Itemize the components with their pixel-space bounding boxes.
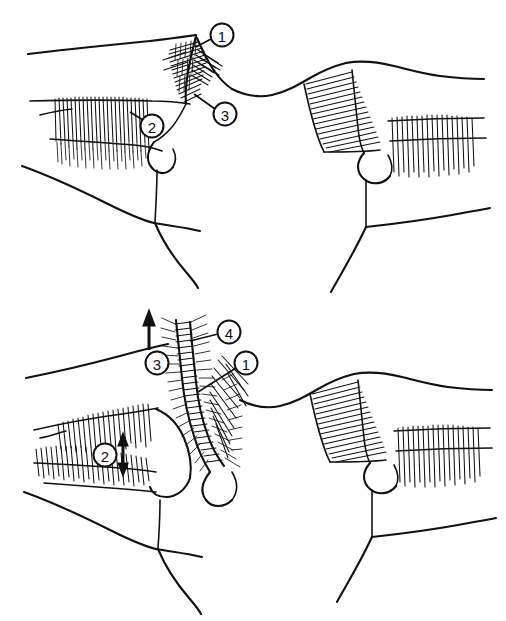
callout-2-lower[interactable]: 2 bbox=[94, 444, 117, 467]
callout-2-upper-number: 2 bbox=[148, 119, 156, 136]
callout-4-lower[interactable]: 4 bbox=[190, 321, 241, 344]
callout-2-upper[interactable]: 2 bbox=[130, 112, 164, 138]
callout-1-lower-number: 1 bbox=[242, 356, 250, 373]
callout-2-lower-number: 2 bbox=[101, 448, 109, 465]
callout-1-lower[interactable]: 1 bbox=[198, 352, 258, 393]
callout-3-lower[interactable]: 3 bbox=[146, 352, 169, 375]
callout-3-upper-number: 3 bbox=[221, 107, 229, 124]
figure-root: 1 3 2 4 1 3 2 bbox=[0, 0, 506, 621]
callout-1-upper[interactable]: 1 bbox=[196, 24, 234, 48]
callout-3-lower-number: 3 bbox=[153, 356, 161, 373]
callout-4-lower-number: 4 bbox=[225, 325, 233, 342]
callout-1-upper-number: 1 bbox=[218, 28, 226, 45]
callout-3-upper[interactable]: 3 bbox=[194, 94, 237, 126]
callouts-layer: 1 3 2 4 1 3 2 bbox=[0, 0, 506, 621]
